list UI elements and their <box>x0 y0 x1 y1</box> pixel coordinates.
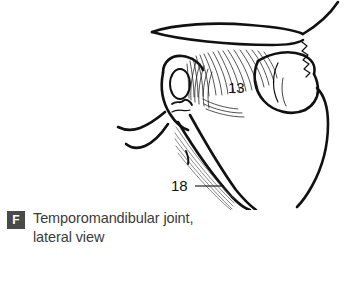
label-18: 18 <box>171 177 188 194</box>
mandibular-condyle-group <box>162 56 203 130</box>
figure-caption-text: Temporomandibular joint, lateral view <box>33 209 193 247</box>
label-13-group: 13 <box>228 79 245 96</box>
acoustic-meatus-group <box>255 52 318 112</box>
figure-caption: F Temporomandibular joint, lateral view <box>7 209 193 247</box>
caption-line-1: Temporomandibular joint, <box>33 209 193 228</box>
caption-line-2: lateral view <box>33 228 193 247</box>
figure-temporomandibular-joint: 13 18 F Temporomandibular joint, lateral… <box>0 0 357 283</box>
label-13: 13 <box>228 79 245 96</box>
skull-outline-group <box>152 2 338 45</box>
figure-badge-letter: F <box>7 211 25 229</box>
anatomical-illustration: 13 18 <box>0 0 357 210</box>
coronoid-process-group <box>118 112 168 148</box>
